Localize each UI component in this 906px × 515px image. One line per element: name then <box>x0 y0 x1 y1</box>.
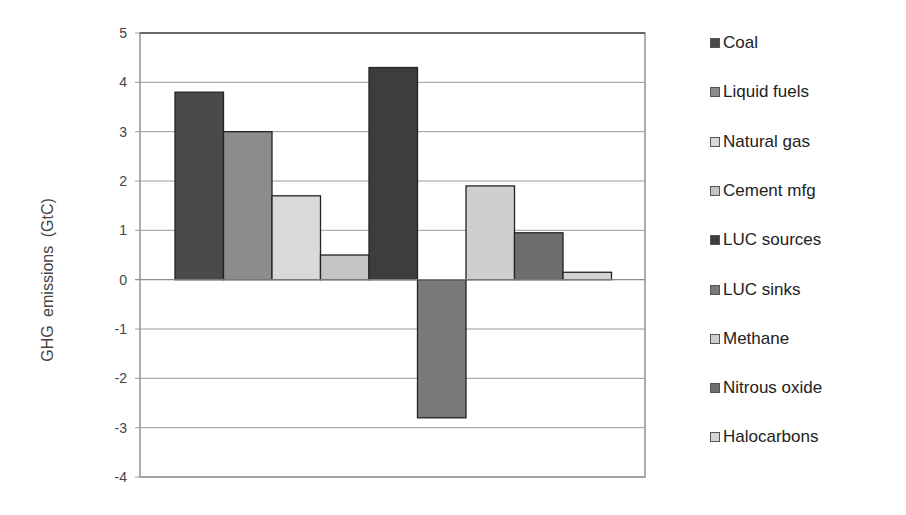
y-tick-label: 4 <box>119 74 127 90</box>
legend-label: Cement mfg <box>723 181 816 201</box>
legend-item-natural-gas: Natural gas <box>710 131 810 153</box>
y-tick-label: -3 <box>115 420 128 436</box>
legend-swatch-icon <box>710 432 720 442</box>
legend-item-cement-mfg: Cement mfg <box>710 180 816 202</box>
bar-cement-mfg <box>321 255 370 280</box>
bar-nitrous-oxide <box>515 233 564 280</box>
legend-item-luc-sinks: LUC sinks <box>710 279 800 301</box>
bar-natural-gas <box>272 196 321 280</box>
legend-swatch-icon <box>710 334 720 344</box>
legend-label: Liquid fuels <box>723 82 809 102</box>
legend-item-halocarbons: Halocarbons <box>710 426 818 448</box>
legend-label: Coal <box>723 33 758 53</box>
bar-liquid-fuels <box>224 132 273 280</box>
legend-swatch-icon <box>710 38 720 48</box>
y-axis-label: GHG emissions (GtC) <box>39 198 57 362</box>
legend-label: Natural gas <box>723 132 810 152</box>
bar-luc-sources <box>369 68 418 280</box>
y-tick-label: 1 <box>119 222 127 238</box>
y-tick-label: 5 <box>119 25 127 41</box>
legend-label: Methane <box>723 329 789 349</box>
bar-luc-sinks <box>418 280 467 418</box>
legend-swatch-icon <box>710 186 720 196</box>
y-tick-label: -1 <box>115 321 128 337</box>
y-tick-label: 2 <box>119 173 127 189</box>
bar-coal <box>175 92 224 279</box>
legend-label: Halocarbons <box>723 427 818 447</box>
legend-swatch-icon <box>710 137 720 147</box>
legend-swatch-icon <box>710 285 720 295</box>
y-tick-label: 0 <box>119 272 127 288</box>
y-tick-label: -4 <box>115 469 128 485</box>
y-tick-label: -2 <box>115 370 128 386</box>
legend-swatch-icon <box>710 235 720 245</box>
legend-label: LUC sinks <box>723 280 800 300</box>
legend-label: LUC sources <box>723 230 821 250</box>
bar-halocarbons <box>563 272 612 279</box>
legend-item-luc-sources: LUC sources <box>710 229 821 251</box>
y-tick-label: 3 <box>119 124 127 140</box>
legend-item-nitrous-oxide: Nitrous oxide <box>710 377 822 399</box>
legend-item-coal: Coal <box>710 32 758 54</box>
legend-swatch-icon <box>710 383 720 393</box>
legend-item-liquid-fuels: Liquid fuels <box>710 81 809 103</box>
legend-item-methane: Methane <box>710 328 789 350</box>
legend-label: Nitrous oxide <box>723 378 822 398</box>
bar-methane <box>466 186 515 280</box>
legend-swatch-icon <box>710 87 720 97</box>
